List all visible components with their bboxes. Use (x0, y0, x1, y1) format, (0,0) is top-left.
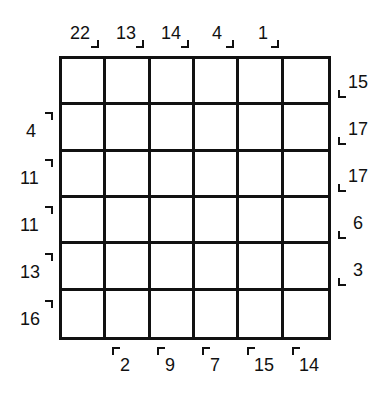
grid-cell-r2c3[interactable] (151, 105, 195, 151)
grid-cell-r5c2[interactable] (106, 244, 150, 290)
corner-mark-icon (91, 40, 99, 48)
puzzle-grid (59, 56, 331, 340)
grid-cell-r6c3[interactable] (151, 291, 195, 337)
corner-mark-icon (136, 40, 144, 48)
right-clue: 15 (348, 73, 368, 91)
corner-mark-icon (338, 90, 346, 98)
grid-cell-r4c2[interactable] (106, 198, 150, 244)
top-clue: 14 (161, 24, 181, 42)
grid-cell-r4c5[interactable] (239, 198, 283, 244)
grid-cell-r6c2[interactable] (106, 291, 150, 337)
corner-mark-icon (338, 137, 346, 145)
grid-cell-r1c5[interactable] (239, 59, 283, 105)
top-clue: 22 (70, 24, 90, 42)
grid-cell-r3c6[interactable] (284, 152, 328, 198)
grid-cell-r4c1[interactable] (62, 198, 106, 244)
grid-cell-r3c3[interactable] (151, 152, 195, 198)
corner-mark-icon (157, 347, 165, 355)
grid-cell-r3c5[interactable] (239, 152, 283, 198)
bottom-clue: 2 (120, 356, 130, 374)
grid-cell-r2c2[interactable] (106, 105, 150, 151)
right-clue: 3 (353, 261, 363, 279)
grid-cell-r1c1[interactable] (62, 59, 106, 105)
corner-mark-icon (292, 347, 300, 355)
grid-cell-r3c1[interactable] (62, 152, 106, 198)
corner-mark-icon (338, 278, 346, 286)
bottom-clue: 15 (254, 356, 274, 374)
grid-cell-r4c6[interactable] (284, 198, 328, 244)
top-clue: 13 (116, 24, 136, 42)
grid-cell-r6c4[interactable] (195, 291, 239, 337)
grid-cell-r3c2[interactable] (106, 152, 150, 198)
left-clue: 11 (20, 169, 39, 187)
corner-mark-icon (338, 231, 346, 239)
bottom-clue: 9 (165, 356, 175, 374)
top-clue: 1 (258, 24, 268, 42)
right-clue: 17 (348, 167, 368, 185)
corner-mark-icon (112, 347, 120, 355)
grid-cell-r5c6[interactable] (284, 244, 328, 290)
bottom-clue: 14 (299, 356, 319, 374)
left-clue: 4 (26, 122, 36, 140)
corner-mark-icon (45, 159, 53, 167)
grid-cell-r6c5[interactable] (239, 291, 283, 337)
corner-mark-icon (202, 347, 210, 355)
grid-cell-r5c1[interactable] (62, 244, 106, 290)
grid-cell-r2c5[interactable] (239, 105, 283, 151)
corner-mark-icon (45, 253, 53, 261)
left-clue: 11 (20, 216, 39, 234)
right-clue: 6 (353, 214, 363, 232)
corner-mark-icon (45, 300, 53, 308)
grid-cell-r4c4[interactable] (195, 198, 239, 244)
grid-cell-r6c6[interactable] (284, 291, 328, 337)
grid-cell-r4c3[interactable] (151, 198, 195, 244)
corner-mark-icon (45, 206, 53, 214)
grid-cell-r1c4[interactable] (195, 59, 239, 105)
grid-cell-r2c1[interactable] (62, 105, 106, 151)
grid-cell-r2c6[interactable] (284, 105, 328, 151)
grid-cell-r2c4[interactable] (195, 105, 239, 151)
corner-mark-icon (226, 40, 234, 48)
grid-cell-r5c4[interactable] (195, 244, 239, 290)
bottom-clue: 7 (210, 356, 220, 374)
corner-mark-icon (45, 112, 53, 120)
grid-cell-r1c2[interactable] (106, 59, 150, 105)
grid-cell-r1c6[interactable] (284, 59, 328, 105)
corner-mark-icon (181, 40, 189, 48)
grid-cell-r1c3[interactable] (151, 59, 195, 105)
left-clue: 13 (20, 263, 40, 281)
corner-mark-icon (271, 40, 279, 48)
corner-mark-icon (247, 347, 255, 355)
grid-cell-r5c5[interactable] (239, 244, 283, 290)
grid-cell-r3c4[interactable] (195, 152, 239, 198)
right-clue: 17 (348, 120, 368, 138)
grid-cell-r6c1[interactable] (62, 291, 106, 337)
top-clue: 4 (212, 24, 222, 42)
left-clue: 16 (20, 310, 40, 328)
grid-cell-r5c3[interactable] (151, 244, 195, 290)
corner-mark-icon (338, 184, 346, 192)
